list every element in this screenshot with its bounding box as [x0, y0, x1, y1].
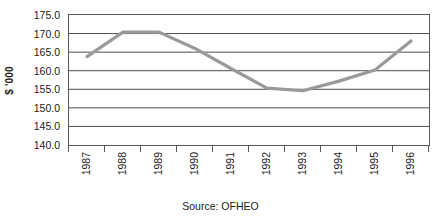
- data-series-layer: [87, 32, 411, 91]
- y-axis-tick-label: 175.0: [34, 9, 60, 21]
- x-axis-tick-label: 1992: [260, 152, 272, 196]
- x-axis-tick-label: 1989: [152, 152, 164, 196]
- data-line: [87, 32, 411, 91]
- chart-figure: $ '000 175.0170.0165.0160.0155.0150.0145…: [0, 0, 441, 223]
- x-axis-tick-label: 1987: [80, 152, 92, 196]
- x-axis-tick-label: 1990: [188, 152, 200, 196]
- y-axis-tick-label: 150.0: [34, 102, 60, 114]
- source-caption: Source: OFHEO: [0, 200, 441, 212]
- x-axis-tick-labels: 1987198819891990199119921993199419951996: [68, 152, 430, 196]
- y-axis-tick-label: 170.0: [34, 28, 60, 40]
- x-axis-tick-label: 1988: [116, 152, 128, 196]
- y-axis-tick-label: 155.0: [34, 83, 60, 95]
- y-axis-title-text: $ '000: [4, 66, 15, 95]
- y-axis-title: $ '000: [0, 40, 18, 120]
- x-axis-tick-label: 1995: [368, 152, 380, 196]
- y-axis-tick-label: 145.0: [34, 120, 60, 132]
- y-axis-tick-label: 165.0: [34, 46, 60, 58]
- y-axis-tick-label: 160.0: [34, 65, 60, 77]
- x-axis-tick-label: 1996: [404, 152, 416, 196]
- x-axis-tick-label: 1991: [224, 152, 236, 196]
- x-axis-tick-label: 1993: [296, 152, 308, 196]
- plot-area: [68, 14, 430, 146]
- chart-svg: [69, 15, 429, 145]
- x-axis-tick-label: 1994: [332, 152, 344, 196]
- y-axis-tick-label: 140.0: [34, 139, 60, 151]
- y-axis-tick-labels: 175.0170.0165.0160.0155.0150.0145.0140.0: [18, 0, 64, 160]
